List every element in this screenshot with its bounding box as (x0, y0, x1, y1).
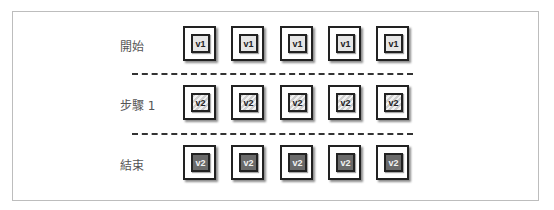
version-tag: v1 (191, 34, 210, 53)
server-box: v2 (376, 145, 409, 180)
row-label-end: 結束 (120, 156, 180, 173)
version-tag: v2 (336, 153, 355, 172)
version-tag: v1 (336, 34, 355, 53)
row-label-start: 開始 (120, 37, 180, 54)
version-tag: v2 (384, 93, 403, 112)
version-tag: v2 (191, 93, 210, 112)
server-box: v2 (183, 145, 216, 180)
row-label-step1: 步驟 1 (120, 96, 180, 113)
version-tag: v2 (288, 93, 307, 112)
version-tag: v1 (239, 34, 258, 53)
version-tag: v2 (288, 153, 307, 172)
server-box: v2 (280, 85, 313, 120)
server-box: v2 (280, 145, 313, 180)
server-box: v1 (280, 26, 313, 61)
version-tag: v2 (239, 153, 258, 172)
server-box: v2 (328, 145, 361, 180)
server-box: v2 (376, 85, 409, 120)
version-tag: v2 (239, 93, 258, 112)
server-box: v2 (183, 85, 216, 120)
version-tag: v2 (191, 153, 210, 172)
version-tag: v2 (336, 93, 355, 112)
version-tag: v1 (384, 34, 403, 53)
row-divider (132, 73, 413, 75)
server-box: v1 (231, 26, 264, 61)
server-box: v1 (328, 26, 361, 61)
diagram-frame (12, 11, 539, 201)
server-box: v2 (231, 85, 264, 120)
server-box: v2 (328, 85, 361, 120)
version-tag: v1 (288, 34, 307, 53)
version-tag: v2 (384, 153, 403, 172)
server-box: v1 (183, 26, 216, 61)
server-box: v2 (231, 145, 264, 180)
server-box: v1 (376, 26, 409, 61)
row-divider (132, 133, 413, 135)
